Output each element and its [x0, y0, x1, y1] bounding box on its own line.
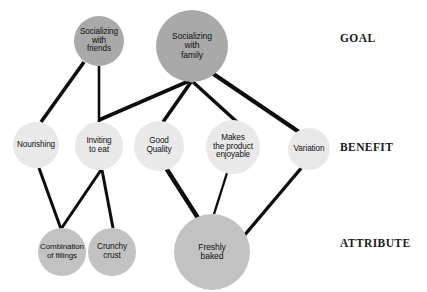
node-inviting-to-eat[interactable]: Inviting to eat — [75, 122, 123, 170]
node-makes-the-product-enjoyable[interactable]: Makes the product enjoyable — [206, 120, 260, 174]
level-label-benefit: BENEFIT — [340, 141, 393, 153]
means-end-chain-diagram: Socializing with friendsSocializing with… — [0, 0, 427, 292]
edge-makes-enjoyable-to-freshly-baked — [214, 173, 227, 214]
edge-family-to-makes-enjoyable — [193, 82, 237, 122]
edge-family-to-inviting — [99, 81, 189, 120]
node-good-quality[interactable]: Good Quality — [134, 121, 184, 171]
edge-variation-to-freshly-baked — [243, 166, 303, 237]
edge-nourishing-to-combination — [39, 168, 61, 229]
edge-inviting-to-combination — [61, 170, 101, 229]
node-label-nourishing: Nourishing — [16, 141, 56, 150]
node-label-variation: Variation — [293, 145, 326, 154]
node-label-inviting-to-eat: Inviting to eat — [85, 137, 112, 155]
edge-friends-to-nourishing — [41, 62, 84, 122]
node-label-good-quality: Good Quality — [146, 137, 173, 155]
node-variation[interactable]: Variation — [288, 128, 330, 170]
level-label-attribute: ATTRIBUTE — [340, 237, 411, 249]
node-label-socializing-with-family: Socializing with family — [171, 32, 213, 60]
node-label-socializing-with-friends: Socializing with friends — [79, 28, 119, 55]
node-nourishing[interactable]: Nourishing — [13, 122, 59, 168]
edge-family-to-good-quality — [163, 82, 191, 122]
edge-good-quality-to-freshly-baked — [166, 168, 198, 218]
edge-inviting-to-crunchy — [102, 170, 113, 228]
node-socializing-with-friends[interactable]: Socializing with friends — [74, 16, 124, 66]
node-label-combination-of-fillings: Combination of fillings — [39, 243, 85, 260]
node-socializing-with-family[interactable]: Socializing with family — [156, 10, 228, 82]
node-freshly-baked[interactable]: Freshly baked — [174, 214, 250, 290]
node-label-makes-the-product-enjoyable: Makes the product enjoyable — [212, 134, 254, 161]
level-label-goal: GOAL — [340, 32, 375, 44]
node-label-crunchy-crust: Crunchy crust — [96, 243, 128, 261]
node-combination-of-fillings[interactable]: Combination of fillings — [38, 228, 86, 276]
node-label-freshly-baked: Freshly baked — [197, 243, 226, 262]
node-crunchy-crust[interactable]: Crunchy crust — [88, 228, 136, 276]
